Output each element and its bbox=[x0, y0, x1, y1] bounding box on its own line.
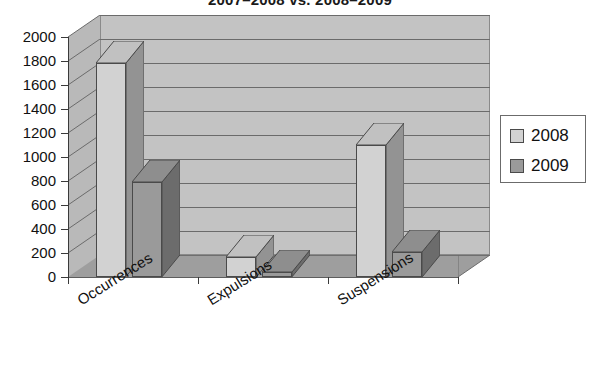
legend-label: 2008 bbox=[531, 127, 569, 144]
y-axis-label: 1600 bbox=[23, 77, 56, 92]
bar-top-face bbox=[96, 41, 144, 65]
legend-label: 2009 bbox=[531, 157, 569, 174]
y-axis-label: 0 bbox=[48, 269, 56, 284]
x-axis-tick bbox=[458, 277, 459, 284]
y-axis-label: 1000 bbox=[23, 149, 56, 164]
plot-area: 2000180016001400120010008006004002000 Oc… bbox=[0, 0, 600, 381]
y-axis-tick bbox=[61, 109, 69, 110]
gridline bbox=[100, 87, 490, 88]
y-axis-tick bbox=[61, 205, 69, 206]
y-axis-label: 1400 bbox=[23, 101, 56, 116]
y-axis-label: 600 bbox=[31, 197, 56, 212]
x-axis-tick bbox=[198, 277, 199, 284]
x-axis-tick bbox=[328, 277, 329, 284]
plot-right-diagonal-edge bbox=[458, 255, 491, 278]
y-axis-label: 2000 bbox=[23, 29, 56, 44]
bar-front-face bbox=[96, 63, 126, 277]
y-axis-tick bbox=[61, 61, 69, 62]
bar-top-face bbox=[392, 230, 440, 254]
chart-root: 2007–2008 vs. 2008–2009 2000180016001400… bbox=[0, 0, 600, 381]
y-axis-tick bbox=[61, 85, 69, 86]
bar-top-face bbox=[132, 160, 180, 184]
bar-top-face bbox=[356, 123, 404, 147]
y-axis-tick bbox=[61, 157, 69, 158]
gridline bbox=[100, 63, 490, 64]
bar-front-face bbox=[356, 145, 386, 277]
y-axis-label: 1800 bbox=[23, 53, 56, 68]
y-axis-tick bbox=[61, 37, 69, 38]
legend-swatch-icon bbox=[510, 129, 524, 143]
y-axis-tick bbox=[61, 181, 69, 182]
legend: 20082009 bbox=[500, 115, 586, 183]
y-axis-label: 800 bbox=[31, 173, 56, 188]
legend-item[interactable]: 2009 bbox=[510, 157, 569, 174]
y-axis-tick bbox=[61, 133, 69, 134]
y-axis-tick bbox=[61, 253, 69, 254]
gridline bbox=[100, 135, 490, 136]
y-axis-tick bbox=[61, 229, 69, 230]
legend-item[interactable]: 2008 bbox=[510, 127, 569, 144]
gridline bbox=[100, 39, 490, 40]
gridline bbox=[100, 15, 490, 16]
y-axis-label: 400 bbox=[31, 221, 56, 236]
x-axis-tick bbox=[68, 277, 69, 284]
y-axis-label: 200 bbox=[31, 245, 56, 260]
gridline bbox=[100, 111, 490, 112]
legend-swatch-icon bbox=[510, 159, 524, 173]
y-axis-label: 1200 bbox=[23, 125, 56, 140]
